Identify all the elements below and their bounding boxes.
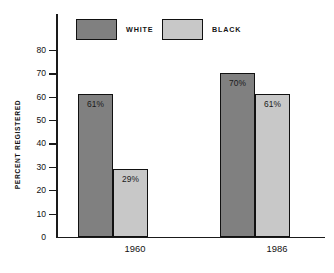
y-axis-tick [49, 73, 56, 74]
y-axis-tick-label: 10 [24, 209, 46, 219]
y-axis-tick-label: 0 [24, 232, 46, 242]
bar-value-label: 61% [256, 99, 289, 109]
bar-1986-black: 61% [255, 94, 290, 237]
plot-area: 61% 29% 70% 61% [56, 14, 325, 237]
y-axis-tick-label: 50 [24, 115, 46, 125]
bar-1960-black: 29% [113, 169, 148, 237]
x-axis-label-1960: 1960 [105, 243, 165, 254]
y-axis-tick [49, 120, 56, 121]
x-axis-label-1986: 1986 [247, 243, 307, 254]
bar-1986-white: 70% [220, 73, 255, 237]
y-axis-tick [49, 97, 56, 98]
y-axis-tick-labels: 80 70 60 50 40 30 20 10 0 [22, 0, 46, 273]
y-axis-tick-label: 70 [24, 68, 46, 78]
y-axis-tick-label: 80 [24, 45, 46, 55]
y-axis-tick-label: 60 [24, 92, 46, 102]
bar-value-label: 29% [114, 174, 147, 184]
bar-value-label: 70% [221, 78, 254, 88]
y-axis-tick-label: 30 [24, 162, 46, 172]
y-axis-tick-label: 40 [24, 138, 46, 148]
x-axis-line [56, 237, 325, 239]
y-axis-title: PERCENT REGISTERED [14, 85, 21, 205]
y-axis-tick [49, 190, 56, 191]
y-axis-tick [49, 214, 56, 215]
y-axis-tick-label: 20 [24, 185, 46, 195]
bar-1960-white: 61% [78, 94, 113, 237]
y-axis-tick [49, 50, 56, 51]
bar-value-label: 61% [79, 99, 112, 109]
y-axis-tick [49, 167, 56, 168]
y-axis-tick [49, 143, 56, 144]
bar-chart: WHITE BLACK 80 70 60 50 40 30 20 10 0 PE… [0, 0, 334, 273]
